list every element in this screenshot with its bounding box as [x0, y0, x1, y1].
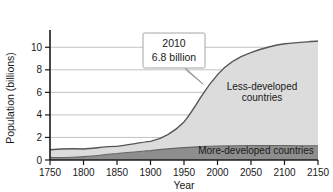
x-tick-label-1850: 1850 [106, 167, 129, 178]
x-tick-label-2050: 2050 [240, 167, 263, 178]
population-growth-chart: 0 2 4 6 8 10 1750 1800 1850 1900 1950 20… [0, 0, 333, 192]
x-axis-tick-labels: 1750 1800 1850 1900 1950 2000 2050 2100 … [39, 167, 330, 178]
x-tick-label-1900: 1900 [139, 167, 162, 178]
y-tick-label-10: 10 [31, 42, 43, 53]
y-tick-label-2: 2 [36, 132, 42, 143]
less-developed-label-line2: countries [242, 92, 283, 103]
x-tick-label-2100: 2100 [273, 167, 296, 178]
callout-year-label: 2010 [162, 37, 186, 49]
x-tick-label-2150: 2150 [307, 167, 330, 178]
less-developed-label-line1: Less-developed [227, 81, 298, 92]
y-axis-title: Population (billions) [4, 52, 16, 144]
x-tick-label-1950: 1950 [173, 167, 196, 178]
callout-value-label: 6.8 billion [152, 51, 197, 63]
x-axis-title: Year [173, 179, 195, 191]
y-tick-label-4: 4 [36, 109, 42, 120]
series-label-more-developed: More-developed countries [198, 145, 314, 156]
y-tick-label-8: 8 [36, 64, 42, 75]
x-tick-label-1750: 1750 [39, 167, 62, 178]
y-tick-label-6: 6 [36, 87, 42, 98]
y-tick-label-0: 0 [36, 155, 42, 166]
x-tick-label-2000: 2000 [206, 167, 229, 178]
y-axis-tick-labels: 0 2 4 6 8 10 [31, 42, 43, 166]
x-tick-label-1800: 1800 [72, 167, 95, 178]
